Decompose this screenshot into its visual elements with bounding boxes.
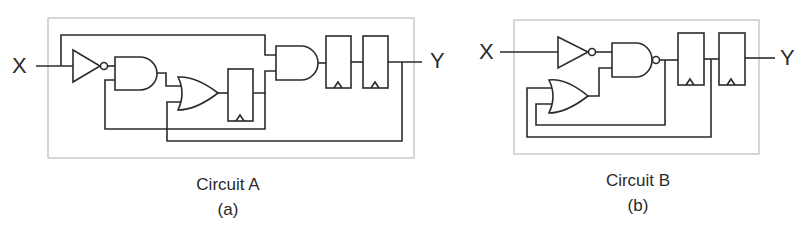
circuit-a-wire [157,73,181,86]
circuit-b-nand-gate [612,43,660,77]
circuit-a-schematic [0,0,804,238]
circuit-a-input-label: X [12,53,27,79]
circuit-b-input-label: X [479,39,494,65]
circuit-a-and-gate-1 [115,57,157,90]
circuit-b-wire [588,68,612,96]
circuit-a-flip-flop-3 [363,36,388,88]
circuit-a-flip-flop-1 [228,69,253,121]
circuit-a-wire [253,71,276,93]
circuit-figure: X Y Circuit A (a) X Y Circuit B (b) [0,0,804,238]
circuit-a-flip-flop-2 [326,36,351,88]
circuit-b-flip-flop-1 [678,33,704,85]
circuit-a-output-label: Y [430,48,445,74]
circuit-b-output-label: Y [780,45,795,71]
circuit-b-sublabel: (b) [608,196,668,216]
circuit-a-sublabel: (a) [198,200,258,220]
circuit-b-flip-flop-2 [719,33,745,85]
circuit-b-or-gate [549,80,588,113]
circuit-a-not-gate [73,50,108,82]
circuit-b-not-gate [558,37,596,68]
circuit-a-title: Circuit A [168,175,288,195]
circuit-a-and-gate-2 [276,46,318,80]
circuit-a-or-gate [178,77,218,110]
circuit-b-title: Circuit B [578,171,698,191]
